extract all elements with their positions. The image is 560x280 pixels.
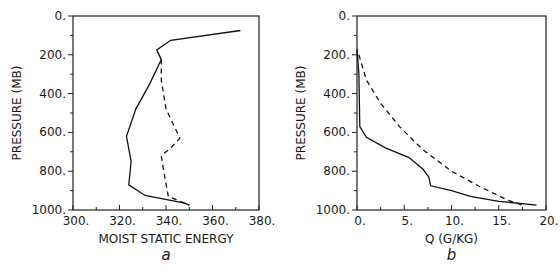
panel-label: b [447, 246, 457, 264]
figure: 0.200.400.600.800.1000.300.320.340.360.3… [0, 0, 560, 280]
panel-label: a [161, 246, 170, 264]
y-tick-label: 0. [339, 9, 350, 23]
x-tick-label: 5. [402, 214, 413, 228]
panel-a: 0.200.400.600.800.1000.300.320.340.360.3… [10, 9, 275, 264]
y-tick-label: 0. [55, 9, 66, 23]
x-tick-label: 340. [156, 214, 183, 228]
y-tick-label: 400. [323, 87, 350, 101]
x-axis-label: Q (G/KG) [425, 232, 478, 246]
series-dashed [359, 55, 523, 205]
plot-frame [357, 16, 546, 210]
y-tick-label: 200. [39, 48, 66, 62]
y-tick-label: 1000. [32, 203, 66, 217]
y-tick-label: 600. [39, 125, 66, 139]
y-tick-label: 1000. [316, 203, 350, 217]
x-tick-label: 15. [492, 214, 511, 228]
x-axis-label: MOIST STATIC ENERGY [99, 232, 235, 246]
x-tick-label: 10. [445, 214, 464, 228]
x-tick-label: 300. [63, 214, 90, 228]
y-tick-label: 600. [323, 125, 350, 139]
chart-canvas: 0.200.400.600.800.1000.300.320.340.360.3… [0, 0, 560, 280]
x-tick-label: 360. [202, 214, 229, 228]
y-tick-label: 800. [323, 164, 350, 178]
panel-b: 0.200.400.600.800.1000.0.5.10.15.20.Q (G… [294, 9, 559, 264]
x-tick-label: 0. [354, 214, 365, 228]
x-tick-label: 380. [249, 214, 276, 228]
series-solid [357, 49, 537, 205]
y-tick-label: 200. [323, 48, 350, 62]
x-tick-label: 320. [109, 214, 136, 228]
series-solid [127, 31, 241, 206]
x-tick-label: 20. [539, 214, 558, 228]
series-dashed [161, 60, 189, 206]
y-tick-label: 800. [39, 164, 66, 178]
plot-frame [73, 16, 259, 210]
y-tick-label: 400. [39, 87, 66, 101]
y-axis-label: PRESSURE (MB) [294, 66, 308, 161]
y-axis-label: PRESSURE (MB) [10, 66, 24, 161]
